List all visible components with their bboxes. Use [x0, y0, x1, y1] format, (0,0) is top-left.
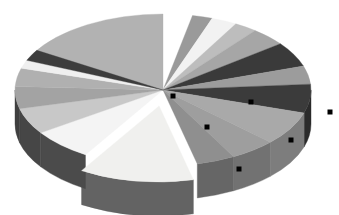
selection-handle-2[interactable] — [249, 100, 254, 105]
selection-handle-1[interactable] — [171, 94, 176, 99]
selection-handle-5[interactable] — [237, 167, 242, 172]
selection-handle-4[interactable] — [289, 138, 294, 143]
pie-chart-svg[interactable] — [0, 0, 339, 215]
selection-handle-3[interactable] — [328, 110, 333, 115]
pie-chart-canvas[interactable]: 3D Exploded Pie Chart — [0, 0, 339, 215]
selection-handle-6[interactable] — [205, 125, 210, 130]
